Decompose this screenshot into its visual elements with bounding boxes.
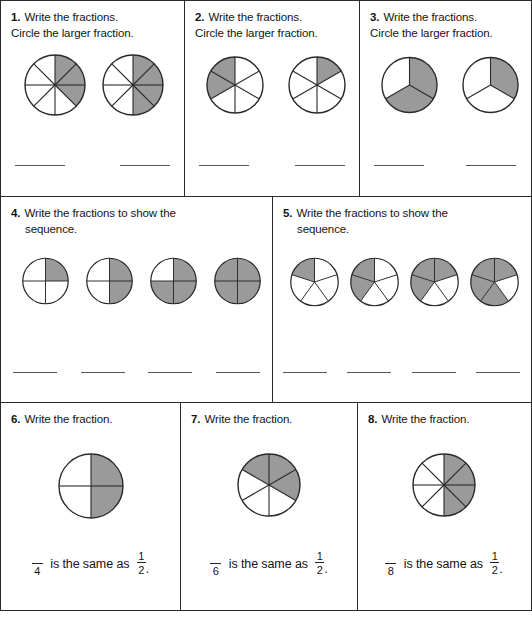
problem-7-text-line1: Write the fraction. [204, 413, 292, 425]
problem-2-figures [195, 55, 349, 115]
problem-1-prompt: 1.Write the fractions. Circle the larger… [11, 10, 174, 41]
problem-cell-7: 7.Write the fraction. 0 6 is the same as… [181, 403, 358, 610]
answer-blank[interactable] [374, 165, 424, 166]
problem-7-half-denominator: 2 [317, 563, 323, 576]
problem-8-half-fraction: 1 2 [490, 551, 499, 576]
problem-4-figures [11, 253, 262, 309]
problem-6-denominator: 4 [34, 564, 40, 577]
answer-blank[interactable] [199, 165, 249, 166]
problem-8-half-denominator: 2 [492, 563, 498, 576]
problem-5-answer-blanks [273, 372, 530, 373]
problem-7-sentence: 0 6 is the same as 1 2 . [181, 551, 357, 576]
problem-4-prompt: 4.Write the fractions to show the sequen… [11, 206, 262, 237]
problem-5-number: 5. [283, 207, 292, 219]
problem-5-prompt: 5.Write the fractions to show the sequen… [283, 206, 520, 237]
answer-blank[interactable] [476, 372, 520, 373]
answer-blank[interactable] [216, 372, 260, 373]
answer-blank[interactable] [148, 372, 192, 373]
problem-1-figures [11, 53, 174, 117]
problem-cell-5: 5.Write the fractions to show the sequen… [273, 197, 530, 402]
problem-1-number: 1. [11, 11, 20, 23]
pie-2-of-4 [57, 452, 125, 520]
problem-5-text-line1: Write the fractions to show the [296, 207, 447, 219]
pie-2-of-4 [85, 253, 134, 309]
problem-7-half-fraction: 1 2 [315, 551, 324, 576]
pie-4-of-8 [411, 452, 477, 518]
problem-7-sentence-text: is the same as [225, 557, 311, 571]
worksheet-row-2: 4.Write the fractions to show the sequen… [0, 196, 532, 402]
pie-2-of-5 [349, 253, 400, 311]
pie-1-of-4 [21, 253, 70, 309]
answer-blank[interactable] [283, 372, 327, 373]
problem-8-sentence: 0 8 is the same as 1 2 . [358, 551, 530, 576]
answer-blank[interactable] [412, 372, 456, 373]
problem-7-answer-fraction[interactable]: 0 6 [210, 552, 221, 577]
pie-1-of-5 [289, 253, 340, 311]
problem-8-period: . [499, 562, 502, 576]
pie-2-of-3 [380, 55, 439, 115]
problem-cell-3: 3.Write the fractions. Circle the larger… [360, 1, 530, 196]
problem-3-prompt: 3.Write the fractions. Circle the larger… [370, 10, 520, 41]
pie-3-of-4 [149, 253, 198, 309]
pie-2-of-6 [205, 55, 265, 115]
pie-3-of-6 [236, 452, 302, 518]
problem-2-text-line2: Circle the larger fraction. [195, 26, 349, 42]
problem-6-figures [11, 452, 170, 520]
problem-cell-1: 1.Write the fractions. Circle the larger… [1, 1, 185, 196]
problem-6-text-line1: Write the fraction. [24, 413, 112, 425]
problem-7-denominator: 6 [213, 564, 219, 577]
answer-blank[interactable] [120, 165, 170, 166]
problem-6-answer-fraction[interactable]: 0 4 [32, 552, 43, 577]
pie-3-of-8 [23, 53, 87, 117]
worksheet-row-1: 1.Write the fractions. Circle the larger… [0, 0, 532, 196]
problem-8-figures [368, 452, 520, 518]
pie-1-of-3 [461, 55, 520, 115]
problem-6-sentence-text: is the same as [47, 557, 133, 571]
problem-8-number: 8. [368, 413, 377, 425]
problem-8-half-numerator: 1 [492, 551, 498, 562]
problem-cell-4: 4.Write the fractions to show the sequen… [1, 197, 273, 402]
problem-8-answer-fraction[interactable]: 0 8 [385, 552, 396, 577]
problem-6-prompt: 6.Write the fraction. [11, 412, 170, 428]
problem-5-figures [283, 253, 520, 311]
answer-blank[interactable] [13, 372, 57, 373]
problem-6-half-denominator: 2 [138, 563, 144, 576]
problem-1-answer-blanks [1, 165, 184, 166]
problem-6-sentence: 0 4 is the same as 1 2 . [1, 551, 180, 576]
problem-cell-8: 8.Write the fraction. 0 8 is the same as… [358, 403, 530, 610]
problem-8-prompt: 8.Write the fraction. [368, 412, 520, 428]
problem-8-denominator: 8 [388, 564, 394, 577]
pie-1-of-6 [287, 55, 347, 115]
answer-blank[interactable] [81, 372, 125, 373]
problem-6-half-numerator: 1 [138, 551, 144, 562]
problem-3-number: 3. [370, 11, 379, 23]
fractions-worksheet: 1.Write the fractions. Circle the larger… [0, 0, 532, 625]
problem-1-text-line2: Circle the larger fraction. [11, 26, 174, 42]
problem-2-answer-blanks [185, 165, 359, 166]
problem-6-number: 6. [11, 413, 20, 425]
problem-7-number: 7. [191, 413, 200, 425]
problem-4-answer-blanks [1, 372, 272, 373]
problem-2-prompt: 2.Write the fractions. Circle the larger… [195, 10, 349, 41]
answer-blank[interactable] [15, 165, 65, 166]
problem-cell-6: 6.Write the fraction. 0 4 is the same as… [1, 403, 181, 610]
answer-blank[interactable] [466, 165, 516, 166]
problem-8-text-line1: Write the fraction. [381, 413, 469, 425]
problem-7-half-numerator: 1 [317, 551, 323, 562]
problem-1-text-line1: Write the fractions. [24, 11, 118, 23]
problem-5-text-line2: sequence. [283, 222, 520, 238]
problem-4-number: 4. [11, 207, 20, 219]
pie-4-of-8 [101, 53, 165, 117]
problem-cell-2: 2.Write the fractions. Circle the larger… [185, 1, 360, 196]
problem-3-figures [370, 55, 520, 115]
worksheet-row-3: 6.Write the fraction. 0 4 is the same as… [0, 402, 532, 611]
problem-3-text-line1: Write the fractions. [383, 11, 477, 23]
answer-blank[interactable] [295, 165, 345, 166]
problem-3-answer-blanks [360, 165, 530, 166]
answer-blank[interactable] [347, 372, 391, 373]
problem-4-text-line2: sequence. [11, 222, 262, 238]
problem-7-prompt: 7.Write the fraction. [191, 412, 347, 428]
pie-4-of-4 [213, 253, 262, 309]
problem-2-number: 2. [195, 11, 204, 23]
problem-7-period: . [324, 562, 327, 576]
